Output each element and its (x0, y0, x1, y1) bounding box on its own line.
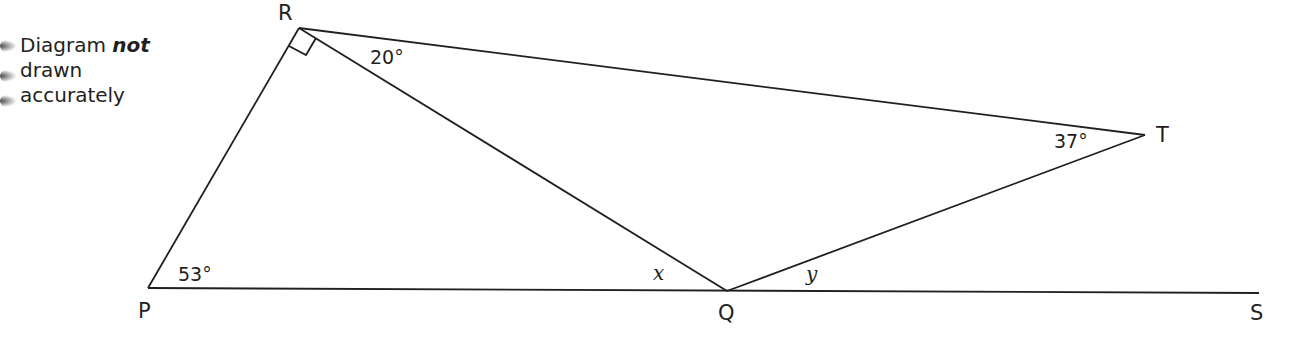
line-PS (148, 288, 1259, 293)
line-RT (299, 28, 1145, 135)
angle-x: x (653, 261, 664, 285)
line-QT (727, 135, 1145, 291)
right-angle-marker (289, 38, 316, 55)
angle-P: 53° (178, 263, 212, 285)
line-RQ (299, 28, 727, 291)
label-R: R (278, 1, 293, 25)
line-PR (148, 28, 299, 288)
label-Q: Q (718, 301, 735, 325)
label-T: T (1155, 123, 1169, 147)
label-S: S (1250, 301, 1263, 325)
angle-QRT: 20° (370, 46, 404, 68)
geometry-diagram: R P Q S T 53° 20° 37° x y (0, 0, 1303, 343)
label-P: P (138, 299, 151, 323)
angle-T: 37° (1054, 130, 1088, 152)
angle-y: y (805, 262, 818, 286)
